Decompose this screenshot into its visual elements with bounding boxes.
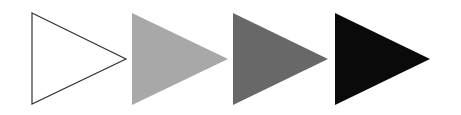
triangle-black-icon bbox=[335, 13, 430, 105]
triangle-diagram bbox=[0, 0, 461, 115]
triangle-light-gray-icon bbox=[132, 13, 228, 105]
triangle-outline-icon bbox=[32, 13, 126, 104]
triangles-svg bbox=[0, 0, 461, 115]
triangle-dark-gray-icon bbox=[233, 13, 328, 105]
